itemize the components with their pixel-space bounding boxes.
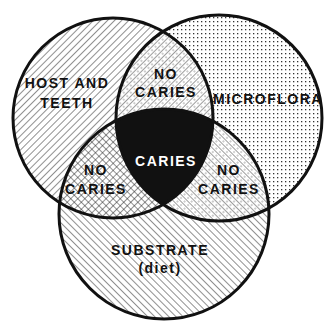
microflora-label: MICROFLORA: [213, 91, 323, 107]
host-label: HOST AND TEETH: [25, 68, 110, 114]
svg-text:TEETH: TEETH: [40, 95, 93, 111]
svg-text:CARIES: CARIES: [135, 153, 197, 169]
svg-text:CARIES: CARIES: [135, 84, 197, 100]
svg-text:CARIES: CARIES: [65, 181, 127, 197]
svg-text:(diet): (diet): [138, 260, 181, 276]
svg-text:NO: NO: [217, 162, 241, 178]
venn-diagram: HOST AND TEETH MICROFLORA SUBSTRATE (die…: [0, 0, 335, 333]
svg-text:NO: NO: [154, 66, 178, 82]
svg-text:CARIES: CARIES: [198, 181, 260, 197]
svg-text:HOST AND: HOST AND: [25, 75, 110, 91]
svg-text:MICROFLORA: MICROFLORA: [213, 91, 323, 107]
caries-label: CARIES: [135, 153, 197, 169]
svg-text:SUBSTRATE: SUBSTRATE: [111, 242, 209, 258]
svg-text:NO: NO: [84, 162, 108, 178]
